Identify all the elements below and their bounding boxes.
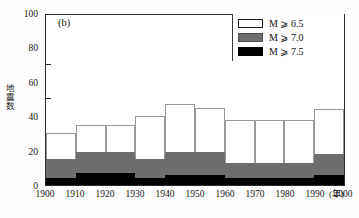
x-tick-label-1940: 1940 [156,190,175,200]
table-row [165,15,195,185]
bar-segment-m75 [255,178,285,185]
x-tick-label-1960: 1960 [216,190,235,200]
legend: M ⩾ 6.5 M ⩾ 7.0 M ⩾ 7.5 [232,14,344,61]
bar-segment-m75 [46,178,76,185]
y-axis-title: 地震数 [4,84,13,111]
x-tick-label-1910: 1910 [66,190,85,200]
table-row [76,15,106,185]
x-tick-label-1980: 1980 [276,190,295,200]
bar-segment-m75 [225,178,255,185]
figure-panel-b: 100 80 60 40 20 0 地震数 [0,0,359,218]
table-row [46,15,76,185]
bar-segment-m75 [106,173,136,185]
bar-segment-m75 [135,178,165,185]
x-axis-labels: 1900 1910 1920 1930 1940 1950 1960 1970 … [45,190,345,206]
x-tick-label-1900: 1900 [36,190,55,200]
y-tick-label-0: 0 [8,182,38,192]
x-axis-unit: (年) [329,190,344,199]
y-tick-label-20: 20 [8,148,38,158]
x-tick-label-1920: 1920 [96,190,115,200]
x-tick-label-1990: 1990 [306,190,325,200]
table-row [135,15,165,185]
legend-swatch-icon [238,19,263,28]
table-row [106,15,136,185]
bar-segment-m75 [76,173,106,185]
x-tick-label-1970: 1970 [246,190,265,200]
y-tick-label-40: 40 [8,113,38,123]
legend-item-m65: M ⩾ 6.5 [238,17,340,30]
bar-segment-m75 [195,175,225,185]
x-tick-label-1930: 1930 [126,190,145,200]
bar-segment-m75 [165,175,195,185]
bar-segment-m75 [284,178,314,185]
legend-item-m70: M ⩾ 7.0 [238,31,340,44]
legend-item-label: M ⩾ 6.5 [269,19,303,29]
legend-item-label: M ⩾ 7.5 [269,47,303,57]
legend-swatch-icon [238,33,263,42]
legend-item-label: M ⩾ 7.0 [269,33,303,43]
x-tick-label-1950: 1950 [186,190,205,200]
legend-item-m75: M ⩾ 7.5 [238,45,340,58]
table-row [195,15,225,185]
bar-segment-m75 [314,175,344,185]
legend-swatch-icon [238,47,263,56]
page-title: (b) [58,18,70,29]
y-tick-label-100: 100 [8,10,38,20]
y-tick-label-80: 80 [8,44,38,54]
